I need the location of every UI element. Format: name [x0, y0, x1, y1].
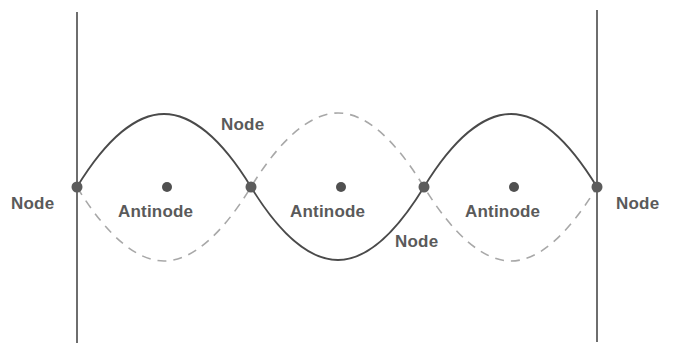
antinode-point-3 [509, 182, 519, 192]
antinode-label-3: Antinode [465, 203, 540, 220]
antinode-point-1 [162, 182, 172, 192]
node-point-1 [72, 182, 83, 193]
standing-wave-diagram [0, 0, 680, 352]
node-label-right: Node [616, 195, 659, 212]
node-point-3 [419, 182, 430, 193]
antinode-point-2 [336, 182, 346, 192]
antinode-label-2: Antinode [290, 203, 365, 220]
node-point-2 [246, 182, 257, 193]
node-label-top: Node [221, 116, 264, 133]
node-label-left: Node [11, 195, 54, 212]
node-point-4 [592, 182, 603, 193]
antinode-label-1: Antinode [118, 203, 193, 220]
node-label-bottom: Node [395, 233, 438, 250]
